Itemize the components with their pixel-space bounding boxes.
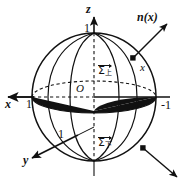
axis-label-x: x xyxy=(5,98,11,110)
point-lower-marker xyxy=(140,145,145,150)
point-x-marker xyxy=(130,55,135,60)
sigma-subscript-lower: 下 xyxy=(105,141,112,149)
right-tick-label: -1 xyxy=(161,99,171,111)
z-tick-label: 1 xyxy=(84,22,90,34)
vector-accent-lower xyxy=(98,137,111,138)
x-tick-label: 1 xyxy=(26,98,32,110)
sphere-surface-diagram: z 1 x 1 y 1 -1 O x n(x) Δ Σ上 Σ下 xyxy=(0,0,188,188)
sigma-subscript-upper: 上 xyxy=(105,69,112,77)
region-label-delta: Δ xyxy=(104,112,110,123)
normal-vector-lower xyxy=(143,148,177,177)
origin-label: O xyxy=(76,83,84,94)
surface-label-upper: Σ上 xyxy=(98,61,111,77)
y-tick-label: 1 xyxy=(58,128,64,140)
surface-label-lower: Σ下 xyxy=(98,133,111,149)
point-x-label: x xyxy=(140,62,145,73)
normal-vector-upper xyxy=(133,24,167,58)
vector-accent-upper xyxy=(98,65,111,66)
normal-vector-label: n(x) xyxy=(137,11,158,23)
axis-label-y: y xyxy=(23,154,28,166)
axis-label-z: z xyxy=(86,3,91,15)
